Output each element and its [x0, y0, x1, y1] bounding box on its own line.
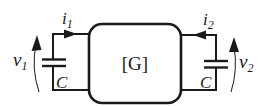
left-port: C i1 v1	[13, 9, 89, 92]
left-voltage-label: v1	[13, 49, 27, 73]
right-current-arrow-icon	[193, 31, 206, 40]
right-port: C i2 v2	[181, 10, 253, 92]
block-label: [G]	[122, 53, 148, 74]
right-capacitor-label: C	[200, 73, 212, 92]
right-current-label: i2	[203, 10, 214, 32]
right-voltage-arrow-icon	[229, 37, 239, 52]
right-voltage-curve	[231, 46, 235, 92]
two-port-network-diagram: [G] C i1 v1 C i2 v2	[0, 0, 269, 106]
left-current-label: i1	[62, 9, 73, 31]
left-capacitor-label: C	[56, 73, 68, 92]
right-voltage-label: v2	[239, 51, 253, 75]
left-voltage-curve	[34, 44, 39, 92]
left-voltage-arrow-icon	[32, 35, 42, 51]
